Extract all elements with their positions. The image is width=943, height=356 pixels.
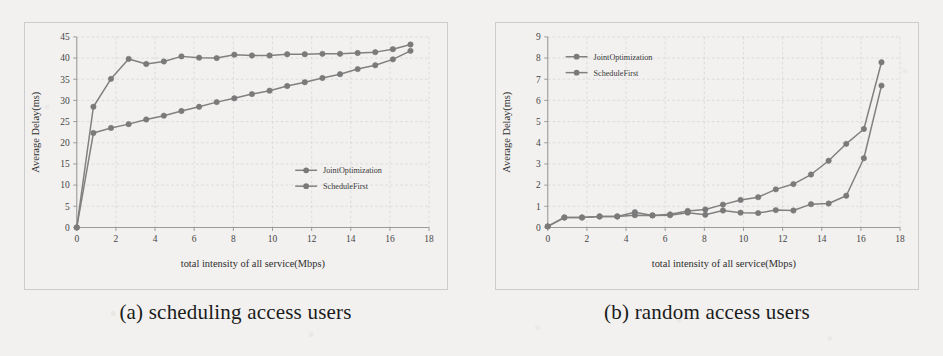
data-point-marker xyxy=(143,61,148,66)
data-point-marker xyxy=(791,208,796,213)
data-point-marker xyxy=(720,202,725,207)
data-point-marker xyxy=(773,207,778,212)
data-point-marker xyxy=(808,201,813,206)
x-axis-tick-label: 0 xyxy=(545,234,550,244)
x-axis-tick-label: 14 xyxy=(817,234,827,244)
data-point-marker xyxy=(773,187,778,192)
x-axis-tick-label: 0 xyxy=(74,234,79,244)
data-point-marker xyxy=(615,214,620,219)
data-point-marker xyxy=(545,224,550,229)
y-axis-title: Average Delay(ms) xyxy=(29,91,41,173)
data-point-marker xyxy=(178,54,183,59)
y-axis-tick-label: 45 xyxy=(60,32,70,42)
data-point-marker xyxy=(302,52,307,57)
y-axis-tick-label: 3 xyxy=(536,159,541,169)
y-axis-tick-label: 9 xyxy=(536,32,541,42)
data-point-marker xyxy=(861,156,866,161)
legend-label-schedulefirst: ScheduleFirst xyxy=(594,69,640,78)
data-point-marker xyxy=(755,210,760,215)
y-axis-tick-label: 10 xyxy=(60,181,70,191)
data-point-marker xyxy=(319,75,324,80)
y-axis-tick-label: 25 xyxy=(60,117,70,127)
y-axis-tick-label: 15 xyxy=(60,159,70,169)
line-chart-random-access-users: 0123456789024681012141618total intensity… xyxy=(496,23,918,289)
data-point-marker xyxy=(354,66,359,71)
data-point-marker xyxy=(302,80,307,85)
data-point-marker xyxy=(90,104,95,109)
x-axis-tick-label: 16 xyxy=(385,234,395,244)
data-point-marker xyxy=(284,83,289,88)
y-axis-tick-label: 35 xyxy=(60,75,70,85)
x-axis-tick-label: 10 xyxy=(739,234,749,244)
data-point-marker xyxy=(143,117,148,122)
data-point-marker xyxy=(879,60,884,65)
legend-label-schedulefirst: ScheduleFirst xyxy=(323,182,369,191)
x-axis-tick-label: 18 xyxy=(895,234,905,244)
legend-marker-icon xyxy=(303,183,309,189)
data-point-marker xyxy=(826,158,831,163)
chart-frame-b: 0123456789024681012141618total intensity… xyxy=(495,22,919,290)
x-axis-tick-label: 12 xyxy=(306,234,316,244)
x-axis-tick-label: 8 xyxy=(230,234,235,244)
series-line-schedulefirst xyxy=(76,51,410,228)
y-axis-tick-label: 6 xyxy=(536,96,541,106)
y-axis-tick-label: 40 xyxy=(60,53,70,63)
legend-marker-icon xyxy=(574,54,580,60)
data-point-marker xyxy=(372,63,377,68)
data-point-marker xyxy=(407,48,412,53)
data-point-marker xyxy=(161,113,166,118)
data-point-marker xyxy=(562,215,567,220)
x-axis-tick-label: 4 xyxy=(152,234,157,244)
data-point-marker xyxy=(214,55,219,60)
data-point-marker xyxy=(372,49,377,54)
data-point-marker xyxy=(738,197,743,202)
x-axis-tick-label: 16 xyxy=(856,234,866,244)
data-point-marker xyxy=(337,51,342,56)
y-axis-tick-label: 5 xyxy=(536,117,541,127)
x-axis-tick-label: 10 xyxy=(267,234,277,244)
data-point-marker xyxy=(284,52,289,57)
y-axis-tick-label: 7 xyxy=(536,75,541,85)
y-axis-tick-label: 30 xyxy=(60,96,70,106)
data-point-marker xyxy=(108,125,113,130)
data-point-marker xyxy=(703,212,708,217)
data-point-marker xyxy=(354,50,359,55)
x-axis-title: total intensity of all service(Mbps) xyxy=(180,258,325,270)
figure-row: 051015202530354045024681012141618total i… xyxy=(0,0,943,356)
data-point-marker xyxy=(125,56,130,61)
y-axis-tick-label: 0 xyxy=(536,223,541,233)
line-chart-scheduling-access-users: 051015202530354045024681012141618total i… xyxy=(25,23,447,289)
legend-label-jointoptimization: JointOptimization xyxy=(323,166,382,175)
x-axis-tick-label: 12 xyxy=(778,234,788,244)
y-axis-tick-label: 4 xyxy=(536,138,541,148)
x-axis-tick-label: 2 xyxy=(113,234,118,244)
x-axis-tick-label: 18 xyxy=(424,234,434,244)
data-point-marker xyxy=(632,213,637,218)
x-axis-tick-label: 2 xyxy=(585,234,590,244)
data-point-marker xyxy=(755,195,760,200)
x-axis-tick-label: 14 xyxy=(346,234,356,244)
data-point-marker xyxy=(231,52,236,57)
data-point-marker xyxy=(738,210,743,215)
data-point-marker xyxy=(720,208,725,213)
data-point-marker xyxy=(597,214,602,219)
data-point-marker xyxy=(791,181,796,186)
legend-marker-icon xyxy=(574,70,580,76)
data-point-marker xyxy=(196,104,201,109)
data-point-marker xyxy=(337,71,342,76)
data-point-marker xyxy=(861,126,866,131)
data-point-marker xyxy=(214,99,219,104)
data-point-marker xyxy=(808,172,813,177)
legend-label-jointoptimization: JointOptimization xyxy=(594,53,653,62)
figure-panel-b: 0123456789024681012141618total intensity… xyxy=(471,0,943,356)
panel-caption-a: (a) scheduling access users xyxy=(119,300,351,325)
x-axis-tick-label: 4 xyxy=(624,234,629,244)
y-axis-tick-label: 0 xyxy=(65,223,70,233)
y-axis-tick-label: 5 xyxy=(65,202,70,212)
data-point-marker xyxy=(685,210,690,215)
y-axis-tick-label: 2 xyxy=(536,181,541,191)
legend-marker-icon xyxy=(303,167,309,173)
data-point-marker xyxy=(178,108,183,113)
data-point-marker xyxy=(90,130,95,135)
data-point-marker xyxy=(650,213,655,218)
